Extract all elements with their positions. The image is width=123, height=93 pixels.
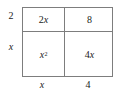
cell-bottom-right-variable: x [90,50,94,60]
edge-label-left-bottom: x [4,42,18,52]
cell-top-right-coefficient: 8 [87,15,92,25]
cell-top-left: 2x [23,8,64,31]
edge-label-bottom-right: 4 [75,80,101,90]
edge-label-bottom-left: x [29,80,55,90]
area-model-diagram: 2x 8 x2 4x 2 x x 4 [0,0,123,93]
cell-top-right: 8 [65,8,114,31]
cell-bottom-left-variable: x [40,50,44,60]
cell-top-left-variable: x [44,15,48,25]
edge-label-left-top: 2 [4,11,18,21]
cell-bottom-right: 4x [65,32,114,78]
cell-bottom-left: x2 [23,32,64,78]
area-model-grid: 2x 8 x2 4x [22,7,113,77]
